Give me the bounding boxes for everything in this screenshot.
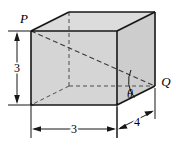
dimension-height-label: 3 [14, 61, 20, 75]
vertex-label-q: Q [161, 74, 171, 89]
dimension-depth-label: 4 [134, 115, 140, 129]
dim-height-arrow-top [14, 32, 20, 41]
dimension-height [8, 31, 34, 105]
dimension-width-label: 3 [71, 122, 77, 136]
face-front [31, 31, 117, 105]
dim-width-arrow-left [32, 126, 41, 132]
dim-width-arrow-right [107, 126, 116, 132]
vertex-label-p: P [19, 11, 28, 26]
box-diagram-svg: 3 3 4 P Q θ [0, 0, 176, 145]
dim-height-arrow-bottom [14, 95, 20, 104]
angle-label-theta: θ [127, 87, 133, 101]
geometry-figure: 3 3 4 P Q θ [0, 0, 176, 145]
